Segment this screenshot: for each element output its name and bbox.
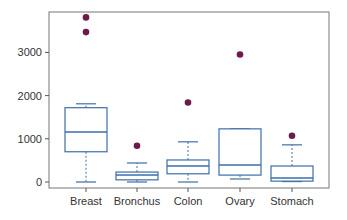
y-tick-label: 0 bbox=[36, 176, 42, 188]
y-axis: 0100020003000 bbox=[18, 46, 49, 188]
iqr-box bbox=[65, 108, 107, 152]
box-ovary bbox=[219, 51, 261, 179]
outlier-point bbox=[83, 14, 90, 21]
x-tick-label-breast: Breast bbox=[70, 195, 102, 207]
x-tick-label-bronchus: Bronchus bbox=[114, 195, 161, 207]
iqr-box bbox=[219, 129, 261, 175]
outlier-point bbox=[185, 99, 192, 106]
x-axis: BreastBronchusColonOvaryStomach bbox=[70, 188, 314, 207]
y-tick-label: 2000 bbox=[18, 90, 42, 102]
iqr-box bbox=[167, 160, 209, 174]
iqr-box bbox=[271, 166, 313, 181]
box-breast bbox=[65, 14, 107, 182]
box-stomach bbox=[271, 132, 313, 181]
outlier-point bbox=[289, 132, 296, 139]
boxes-group bbox=[65, 14, 313, 182]
box-bronchus bbox=[116, 142, 158, 182]
y-tick-label: 3000 bbox=[18, 46, 42, 58]
y-tick-label: 1000 bbox=[18, 133, 42, 145]
x-tick-label-colon: Colon bbox=[174, 195, 203, 207]
outlier-point bbox=[134, 142, 141, 149]
x-tick-label-ovary: Ovary bbox=[225, 195, 255, 207]
outlier-point bbox=[83, 29, 90, 36]
iqr-box bbox=[116, 172, 158, 180]
x-tick-label-stomach: Stomach bbox=[270, 195, 313, 207]
outlier-point bbox=[237, 51, 244, 58]
box-plot-chart: 0100020003000 BreastBronchusColonOvarySt… bbox=[0, 0, 347, 220]
box-colon bbox=[167, 99, 209, 182]
